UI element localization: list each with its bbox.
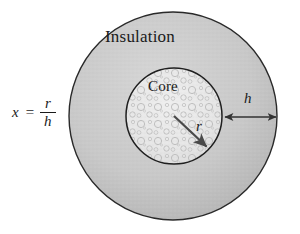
radius-symbol-label: r bbox=[196, 118, 202, 135]
formula-variable: x bbox=[12, 104, 19, 121]
insulation-label: Insulation bbox=[105, 27, 175, 47]
ratio-formula: x = r h bbox=[12, 96, 56, 130]
core-label: Core bbox=[148, 78, 178, 95]
formula-fraction: r h bbox=[40, 96, 56, 130]
formula-denominator: h bbox=[41, 113, 55, 129]
insulation-core-diagram: Insulation Core r h x = r h bbox=[0, 0, 300, 234]
formula-equals: = bbox=[25, 104, 35, 121]
thickness-symbol-label: h bbox=[244, 90, 252, 107]
formula-numerator: r bbox=[42, 96, 54, 112]
